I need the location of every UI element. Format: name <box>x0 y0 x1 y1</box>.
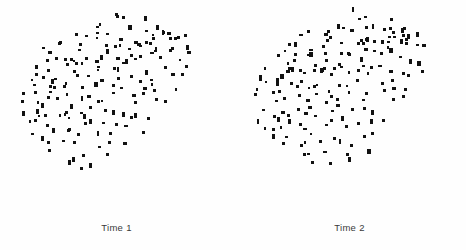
scatter-point <box>68 160 71 165</box>
scatter-point <box>357 122 360 125</box>
scatter-point <box>89 106 92 109</box>
scatter-point <box>58 42 61 45</box>
scatter-point <box>155 98 158 101</box>
scatter-point <box>22 92 25 95</box>
plot-area-time-1 <box>0 0 233 212</box>
scatter-point <box>85 35 88 37</box>
scatter-point <box>75 62 78 65</box>
scatter-point <box>102 122 105 124</box>
scatter-point <box>284 50 286 52</box>
scatter-point <box>54 78 57 80</box>
scatter-point <box>63 85 66 88</box>
scatter-point <box>314 115 317 117</box>
scatter-point <box>389 27 392 30</box>
scatter-point <box>348 71 350 74</box>
scatter-point <box>113 67 116 70</box>
scatter-point <box>370 66 373 69</box>
plot-area-time-2 <box>233 0 466 212</box>
scatter-point <box>365 92 368 95</box>
scatter-point <box>404 88 407 91</box>
scatter-point <box>73 141 76 144</box>
panel-label-time-1: Time 1 <box>0 222 233 233</box>
scatter-point <box>96 32 99 34</box>
scatter-point <box>373 40 376 43</box>
scatter-point <box>362 99 365 101</box>
scatter-point <box>336 98 339 101</box>
scatter-point <box>123 142 127 145</box>
scatter-point <box>345 125 348 128</box>
scatter-point <box>256 88 258 91</box>
scatter-point <box>147 117 150 120</box>
scatter-point <box>291 67 294 72</box>
scatter-point <box>81 96 83 101</box>
scatter-point <box>370 119 373 124</box>
scatter-point <box>330 95 333 98</box>
scatter-point <box>112 110 115 115</box>
scatter-point <box>306 99 310 102</box>
scatter-point <box>337 24 340 29</box>
scatter-point <box>293 59 296 62</box>
scatter-point <box>391 79 394 82</box>
scatter-point <box>371 110 374 115</box>
scatter-point <box>348 157 351 162</box>
scatter-point <box>389 70 393 73</box>
scatter-point <box>381 82 384 85</box>
scatter-point <box>287 114 290 117</box>
scatter-point <box>101 100 103 102</box>
scatter-point <box>407 74 410 77</box>
scatter-point <box>273 115 276 118</box>
scatter-point <box>402 72 405 75</box>
scatter-point <box>153 89 156 92</box>
scatter-point <box>145 30 148 32</box>
scatter-point <box>362 42 365 45</box>
scatter-point <box>150 79 153 81</box>
scatter-point <box>177 36 180 39</box>
scatter-point <box>64 113 66 116</box>
scatter-point <box>144 16 147 21</box>
scatter-point <box>186 45 189 50</box>
scatter-point <box>184 34 187 37</box>
scatter-point <box>280 74 284 79</box>
scatter-point <box>105 44 108 47</box>
scatter-point <box>68 128 71 131</box>
scatter-point <box>130 54 133 57</box>
scatter-point <box>97 131 99 136</box>
scatter-point <box>364 48 368 51</box>
scatter-point <box>108 141 111 144</box>
scatter-point <box>356 79 359 82</box>
scatter-point <box>285 136 288 138</box>
scatter-point <box>169 37 172 40</box>
scatter-point <box>117 67 119 72</box>
scatter-point <box>151 83 153 86</box>
scatter-point <box>89 163 92 168</box>
scatter-point <box>387 41 390 43</box>
scatter-point <box>303 128 307 130</box>
panel-time-2: Time 2 <box>233 0 466 250</box>
scatter-point <box>51 79 54 84</box>
scatter-point <box>112 84 115 87</box>
scatter-point <box>36 109 39 114</box>
scatter-point <box>264 127 266 130</box>
scatter-point <box>109 132 112 135</box>
scatter-point <box>94 82 98 87</box>
scatter-point <box>31 79 33 81</box>
scatter-point <box>382 119 385 122</box>
scatter-point <box>42 76 45 79</box>
scatter-point <box>76 74 79 77</box>
scatter-point <box>328 90 330 93</box>
scatter-point <box>106 49 109 54</box>
scatter-point <box>309 52 313 57</box>
scatter-point <box>143 87 147 90</box>
scatter-point <box>106 153 109 156</box>
scatter-point <box>278 90 281 93</box>
scatter-point <box>262 109 265 111</box>
scatter-point <box>41 103 44 108</box>
scatter-point <box>159 56 162 59</box>
scatter-point <box>350 29 354 32</box>
scatter-point <box>325 101 328 104</box>
scatter-point <box>373 50 376 52</box>
scatter-point <box>282 142 285 145</box>
scatter-point <box>340 42 343 44</box>
scatter-point <box>264 67 266 70</box>
scatter-point <box>128 48 131 50</box>
